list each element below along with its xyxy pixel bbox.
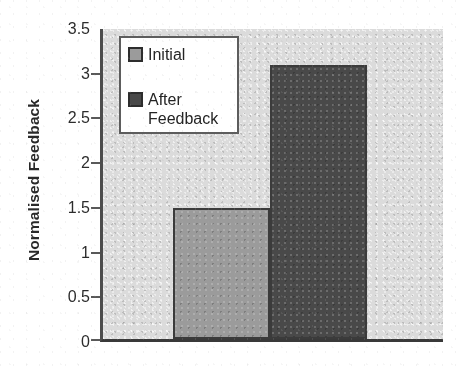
y-tick-mark bbox=[91, 296, 100, 298]
chart-legend: Initial After Feedback bbox=[119, 36, 239, 134]
y-tick-label: 1 bbox=[81, 245, 90, 261]
legend-swatch-initial bbox=[128, 47, 143, 62]
y-tick-label: 0 bbox=[81, 334, 90, 350]
y-tick-mark bbox=[91, 117, 100, 119]
bar-initial[interactable] bbox=[173, 208, 270, 339]
legend-item-initial[interactable]: Initial bbox=[128, 45, 232, 64]
y-tick-label: 1.5 bbox=[68, 200, 90, 216]
legend-label-after-feedback: After Feedback bbox=[148, 90, 218, 128]
bar-chart-figure: Normalised Feedback 3.5 3 2.5 2 1.5 1 0.… bbox=[0, 0, 465, 366]
y-tick-mark bbox=[91, 162, 100, 164]
y-tick-label: 3.5 bbox=[68, 21, 90, 37]
y-tick-label: 3 bbox=[81, 66, 90, 82]
plot-inner: Initial After Feedback bbox=[103, 29, 443, 339]
y-tick-label: 2 bbox=[81, 155, 90, 171]
y-tick-mark bbox=[91, 207, 100, 209]
y-axis-tick-labels: 3.5 3 2.5 2 1.5 1 0.5 0 bbox=[28, 29, 90, 342]
bar-after-feedback[interactable] bbox=[270, 65, 367, 339]
y-tick-mark bbox=[91, 252, 100, 254]
y-tick-label: 0.5 bbox=[68, 289, 90, 305]
y-tick-mark bbox=[91, 339, 100, 341]
legend-label-initial: Initial bbox=[148, 45, 185, 64]
legend-swatch-after-feedback bbox=[128, 92, 143, 107]
legend-item-after-feedback[interactable]: After Feedback bbox=[128, 90, 232, 128]
y-tick-label: 2.5 bbox=[68, 110, 90, 126]
plot-area: Initial After Feedback bbox=[100, 29, 443, 342]
y-tick-mark bbox=[91, 73, 100, 75]
